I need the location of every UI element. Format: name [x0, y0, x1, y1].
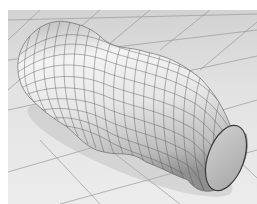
render-scene [0, 0, 257, 204]
